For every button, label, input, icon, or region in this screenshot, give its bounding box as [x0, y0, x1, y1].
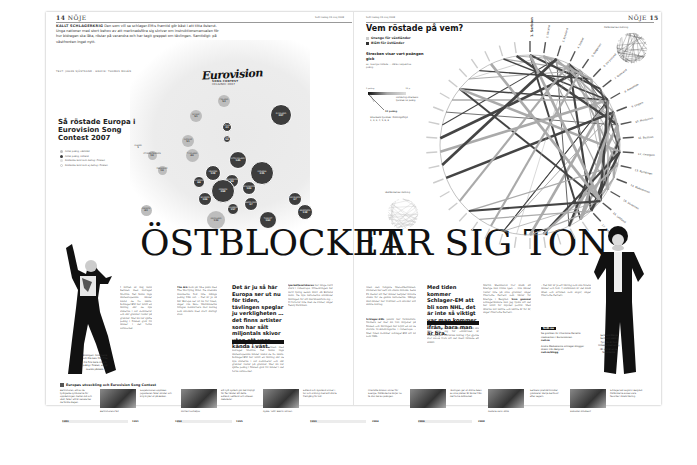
bubble-value: 53 [222, 101, 225, 104]
svd-factbox: SvD.se Se grafiken för Charlotte Perrell… [541, 327, 591, 355]
legend-swatch-west [60, 150, 63, 153]
photo-caption-left: Ensingen: Anna-Lena och Ola Salo från Th… [82, 354, 108, 371]
left-article-col3a: I mitten av maj vann Serbien med bidrage… [232, 346, 284, 378]
bubble-value: 33 [225, 127, 228, 130]
timeline-entry-text: Estland och Ryssland vinner i tur och or… [303, 389, 337, 398]
map-bubble: FRANKRIKE19 [158, 166, 167, 175]
factbox-text1: Se grafiken för Charlotte Perrellis medv… [541, 332, 591, 339]
bubble-value: 97 [249, 204, 252, 207]
map-bubble: LETTLAND54 [223, 135, 231, 143]
timeline-photo-caption: Michail Gorbatjov [181, 410, 200, 413]
map-bubble: SVERIGE51 [182, 135, 194, 147]
map-bubble: SLOVENIEN66 [193, 176, 205, 188]
chord-note: ex. Sverige röstade ... därav respektive… [366, 63, 416, 69]
timeline-entry-text: Charlotte Nilsson vinner för Sverige. Ös… [368, 389, 402, 398]
chord-chart-legend: Orange för västländer Blått för östlände… [366, 36, 411, 46]
left-page-number: 14 [56, 14, 65, 21]
chord-subtitle: Strecken visar vart poängen gick [366, 52, 426, 61]
pull-quote-right-bar [427, 321, 479, 325]
right-article-col4: – Det här är ju ett tävling som ska före… [541, 284, 591, 324]
timeline-year: 2008 [478, 420, 485, 423]
map-bubble: SPANIEN43 [141, 205, 152, 216]
timeline-photo [263, 389, 299, 408]
timeline-year: 1999 [310, 420, 317, 423]
timeline-entry-text: Sovjetunionen upplöses. Jugoslavien fall… [140, 389, 174, 398]
bubble-value: 19 [160, 170, 163, 173]
bubble-value: 106 [203, 199, 208, 202]
left-article-col2: The Ark kom på 18:e plats med The Worryi… [177, 286, 217, 378]
mini-chart-east-title: Östländernas röstning [604, 26, 628, 29]
timeline-year: 2004 [372, 420, 379, 423]
right-dateline: SvD fredag 23 maj 2008 [366, 16, 395, 19]
photo-caption-right: Serbiens Marija Šerifović vann i fjol. N… [598, 334, 620, 354]
scale-order: Streckens tjocklek: Ordningsföljd 1, 2, … [370, 116, 410, 122]
legend-swatch-nonfinal [60, 164, 63, 167]
right-article-col1: Även den tidigare Melodifestivalen-vinna… [366, 286, 416, 316]
timeline-photo-caption: Slobodan Milošević [570, 410, 591, 413]
bubble-value: 109 [247, 188, 252, 191]
scale-notes: Förklaring streckens tjocklek 12 poäng [396, 96, 422, 102]
timeline-year: 2006 [418, 420, 425, 423]
bubble-value: 235 [260, 173, 265, 176]
map-bubble: TYSKLAND49 [186, 149, 199, 162]
map-bubble: MOLDAVIEN109 [242, 181, 256, 195]
factbox-link2[interactable]: svd.se/blogg [541, 351, 591, 354]
timeline-entry-text: Serbiens premiärminister gratulerar Mari… [530, 389, 564, 398]
timeline-photo-caption: Berlinmurens fall [100, 410, 119, 413]
map-bubble: UKRAINA235 [250, 161, 274, 185]
kicker-lead: KALLT SCHLAGERKRIG [56, 24, 103, 28]
map-bubble: FINLAND53 [218, 95, 230, 107]
bubble-value: 97 [293, 199, 296, 202]
chord-label: 1. Serbien [530, 17, 534, 37]
bubble-value: 128 [211, 173, 216, 176]
performer-photo-right [588, 222, 650, 382]
bubble-value: 145 [236, 160, 241, 163]
legend-swatch-final [60, 159, 63, 162]
map-bubble: SERBIEN268 [211, 179, 235, 203]
map-bubble: STORBRITANNIEN19 [148, 151, 157, 160]
right-article-col1b: Schlager-EMs publik har förändrats. Nume… [366, 318, 416, 380]
left-folio: 14 NÖJE [56, 14, 87, 21]
legend-west-swatch [366, 37, 369, 40]
timeline-year: 1991 [132, 420, 139, 423]
legend-east-swatch [366, 42, 369, 45]
map-title: Så röstade Europa i Eurovision Song Cont… [58, 118, 143, 142]
map-bubble: ISLAND1 [135, 144, 142, 151]
factbox-link1[interactable]: svd.se [541, 339, 591, 342]
timeline-photo-caption: Ruslana vann 2004 [488, 410, 509, 413]
map-bubble: NORGE51 [190, 110, 202, 122]
mini-chart-west [383, 196, 423, 232]
factbox-head: SvD.se [541, 327, 556, 330]
map-legend: Antal poäng, väststat Antal poäng, östla… [60, 150, 108, 169]
legend-item-nonfinal: Röstande land som ej deltog i finalen [60, 164, 108, 169]
timeline-bar [62, 420, 128, 423]
mini-chart-west-title: Västländernas röstning [385, 191, 410, 194]
bubble-value: 207 [279, 115, 284, 118]
byline: TEXT: JOHAN SJÖSTRAND · GRAFIK: THOMAS M… [56, 70, 131, 73]
timeline-year: 1994 [175, 420, 182, 423]
right-article-col2: Ett av de nya länderna i tävlingen som s… [427, 327, 479, 380]
bubble-value: 1 [137, 147, 139, 150]
timeline-entry-text: Berlinmuren, ett av de tydligaste symbol… [60, 389, 94, 404]
pull-quote-left-bar [232, 340, 284, 344]
left-section-name: NÖJE [68, 14, 87, 21]
left-header-rule [56, 22, 352, 23]
bubble-value: 157 [231, 209, 236, 212]
left-article-col1: I mitten av maj vann Serbien med bidrage… [120, 286, 152, 381]
left-article-col4: Iparkettesatsbaren har länge varit stark… [288, 284, 333, 378]
timeline-icon [60, 383, 64, 387]
bubble-value: 51 [194, 116, 197, 119]
timeline-year: 1995 [236, 420, 243, 423]
bubble-value: 49 [190, 155, 193, 158]
bubble-value: 51 [186, 141, 189, 144]
map-bubble: VITRYSSLAND145 [229, 151, 247, 169]
map-bubble: MAKEDONIEN97 [244, 197, 258, 211]
scale-12-label: 12 poäng [385, 110, 397, 113]
timeline-photo [488, 389, 524, 408]
bubble-value: 268 [221, 191, 226, 194]
left-dateline: SvD fredag 23 maj 2008 [315, 16, 344, 19]
timeline-photo [570, 389, 606, 408]
mini-chart-east [610, 30, 652, 66]
eurovision-logo-sub: SONG CONTEST HELSINKI 2007 [212, 80, 238, 86]
bubble-value: 54 [225, 139, 228, 142]
